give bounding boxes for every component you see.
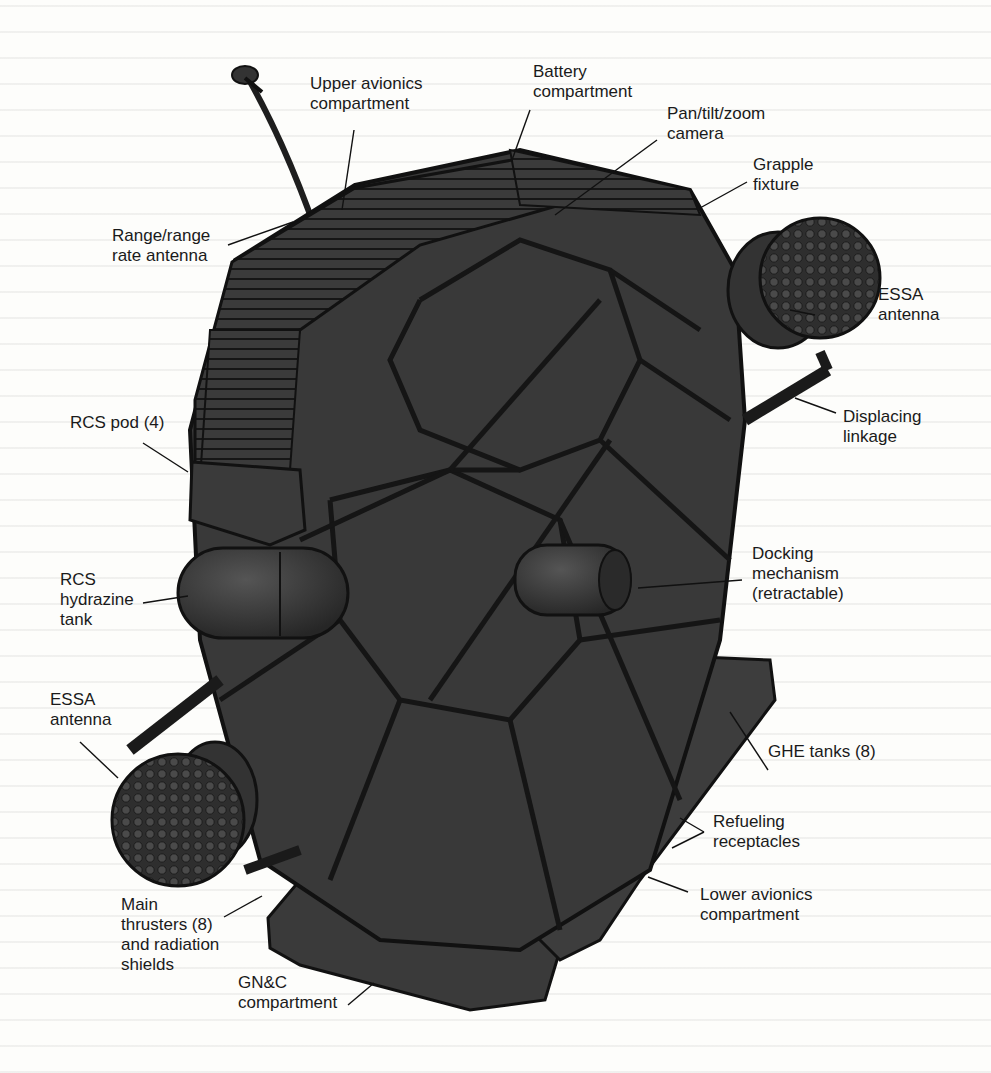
label-main-thrusters: Main thrusters (8) and radiation shields (121, 895, 219, 975)
label-displacing-linkage: Displacing linkage (843, 407, 921, 447)
rcs-tank-shape (178, 548, 348, 638)
label-refueling-receptacles: Refueling receptacles (713, 812, 800, 852)
label-essa-antenna-right: ESSA antenna (878, 285, 939, 325)
label-battery-compartment: Battery compartment (533, 62, 632, 102)
essa-antenna-right-shape (760, 218, 880, 338)
label-grapple-fixture: Grapple fixture (753, 155, 813, 195)
label-ghe-tanks: GHE tanks (8) (768, 742, 876, 762)
label-lower-avionics-compartment: Lower avionics compartment (700, 885, 812, 925)
essa-antenna-left-shape (112, 754, 244, 886)
label-rcs-hydrazine-tank: RCS hydrazine tank (60, 570, 134, 630)
label-essa-antenna-left: ESSA antenna (50, 690, 111, 730)
label-rcs-pod: RCS pod (4) (70, 413, 164, 433)
label-pan-tilt-zoom-camera: Pan/tilt/zoom camera (667, 104, 765, 144)
diagram-canvas: Upper avionics compartment Battery compa… (0, 0, 991, 1073)
label-range-rate-antenna: Range/range rate antenna (112, 226, 210, 266)
label-upper-avionics-compartment: Upper avionics compartment (310, 74, 422, 114)
label-gnc-compartment: GN&C compartment (238, 973, 337, 1013)
label-docking-mechanism: Docking mechanism (retractable) (752, 544, 844, 604)
